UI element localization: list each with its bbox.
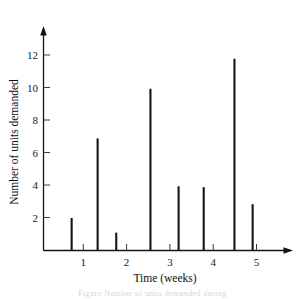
x-tick-label-5: 5: [254, 256, 260, 268]
y-tick-labels: 2 4 6 8 10 12: [27, 49, 39, 224]
y-axis-title: Number of units demanded: [8, 79, 20, 205]
y-tick-label-2: 2: [33, 212, 39, 224]
y-tick-label-4: 4: [33, 179, 39, 191]
y-tick-label-6: 6: [33, 147, 39, 159]
x-axis-title: Time (weeks): [133, 272, 196, 285]
spike-series: [72, 59, 253, 251]
y-tick-label-12: 12: [27, 49, 38, 61]
y-axis-arrowhead: [40, 26, 47, 36]
y-axis: [40, 26, 47, 251]
figure-caption-ghost: Figure Number of units demanded during: [0, 289, 305, 298]
x-axis-arrowhead: [284, 247, 294, 254]
x-tick-label-1: 1: [81, 256, 87, 268]
x-axis: [44, 247, 294, 254]
x-tick-label-4: 4: [210, 256, 216, 268]
y-tick-label-10: 10: [27, 82, 39, 94]
y-tick-marks: [44, 55, 51, 218]
x-tick-marks: [83, 244, 256, 251]
x-tick-label-2: 2: [124, 256, 130, 268]
x-tick-labels: 1 2 3 4 5: [81, 256, 260, 268]
figure-spike-chart: 2 4 6 8 10 12 1 2 3 4 5 Time (weeks) Num…: [0, 0, 305, 299]
x-tick-label-3: 3: [167, 256, 173, 268]
chart-canvas: 2 4 6 8 10 12 1 2 3 4 5 Time (weeks) Num…: [0, 0, 305, 299]
y-tick-label-8: 8: [33, 114, 39, 126]
